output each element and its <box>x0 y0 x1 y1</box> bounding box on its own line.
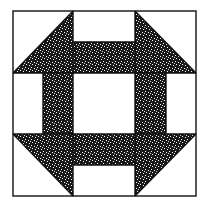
bar-top <box>73 42 135 73</box>
bar-right <box>135 73 166 134</box>
block-background <box>13 11 196 196</box>
quilt-block <box>0 0 211 211</box>
bar-bottom <box>73 134 135 165</box>
bar-left <box>43 73 73 134</box>
